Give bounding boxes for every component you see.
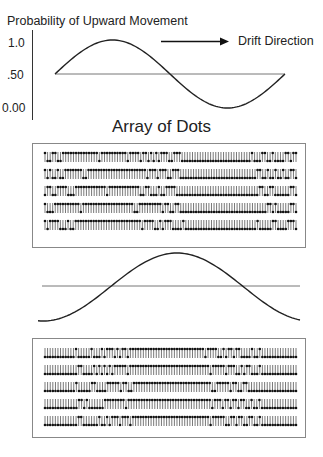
figure-canvas — [0, 0, 323, 457]
lower-dot-array — [44, 348, 298, 427]
right-arrow-icon — [161, 38, 229, 46]
lower-probability-curve — [38, 253, 300, 321]
upper-dot-array — [44, 152, 298, 231]
